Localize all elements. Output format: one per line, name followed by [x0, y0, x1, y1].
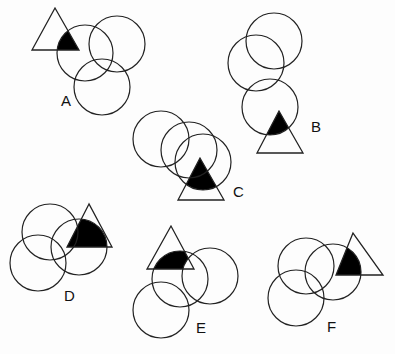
figure-label: A	[61, 92, 71, 109]
figures-canvas: ABCDEF	[0, 0, 395, 354]
figure-option-d[interactable]: D	[10, 204, 112, 304]
circle-shape	[161, 122, 217, 178]
figure-option-f[interactable]: F	[268, 233, 383, 335]
figure-label: B	[311, 118, 321, 135]
circle-shape	[133, 282, 189, 338]
circle-shape	[268, 270, 324, 326]
circle-shape	[182, 248, 238, 304]
figure-label: C	[233, 183, 244, 200]
figure-option-c[interactable]: C	[133, 111, 244, 200]
figure-label: D	[64, 287, 75, 304]
circle-shape	[10, 235, 66, 291]
figure-option-b[interactable]: B	[228, 13, 321, 153]
figure-option-e[interactable]: E	[133, 226, 238, 338]
figure-option-a[interactable]: A	[32, 8, 145, 115]
circle-shape	[57, 25, 113, 81]
figure-label: E	[196, 319, 206, 336]
circle-shape	[133, 111, 189, 167]
figure-label: F	[327, 318, 336, 335]
puzzle-diagram: ABCDEF	[0, 0, 395, 354]
circle-shape	[22, 204, 78, 260]
